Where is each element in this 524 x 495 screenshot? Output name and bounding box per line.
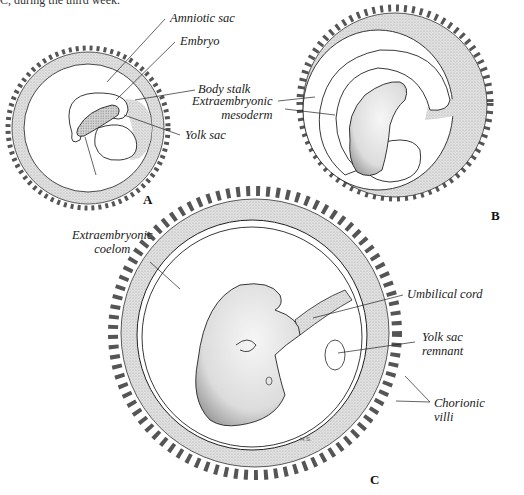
label-extraembryonic-coelom-line2: coelom [72, 242, 153, 256]
label-yolk-sac: Yolk sac [185, 128, 226, 142]
panel-letter-c: C [370, 472, 379, 488]
label-umbilical-cord: Umbilical cord [407, 287, 483, 301]
label-chorionic-villi-line2: villi [434, 410, 485, 424]
yolk-sac-a [95, 125, 137, 160]
label-chorionic-villi: Chorionic villi [434, 396, 485, 424]
caption-fragment: C, during the third week. [0, 0, 120, 8]
label-extraembryonic-mesoderm-line2: mesoderm [192, 108, 273, 122]
label-amniotic-sac: Amniotic sac [170, 11, 235, 25]
label-extraembryonic-coelom: Extraembryonic coelom [72, 228, 153, 256]
label-extraembryonic-coelom-line1: Extraembryonic [72, 228, 153, 242]
label-extraembryonic-mesoderm-line1: Extraembryonic [192, 94, 273, 108]
panel-letter-b: B [491, 208, 500, 224]
artist-signature: H.S. [300, 436, 312, 442]
label-yolk-sac-remnant-line1: Yolk sac [422, 330, 463, 344]
panel-b-illustration [300, 8, 490, 198]
yolk-sac-remnant-c [325, 340, 345, 370]
embryo-development-figure: C, during the third week. Amniotic sac E… [0, 0, 524, 495]
label-extraembryonic-mesoderm: Extraembryonic mesoderm [192, 94, 273, 122]
label-yolk-sac-remnant-line2: remnant [422, 344, 463, 358]
label-yolk-sac-remnant: Yolk sac remnant [422, 330, 463, 358]
panel-letter-a: A [143, 192, 152, 208]
panel-c-illustration [113, 191, 397, 475]
label-chorionic-villi-line1: Chorionic [434, 396, 485, 410]
label-embryo: Embryo [180, 34, 220, 48]
